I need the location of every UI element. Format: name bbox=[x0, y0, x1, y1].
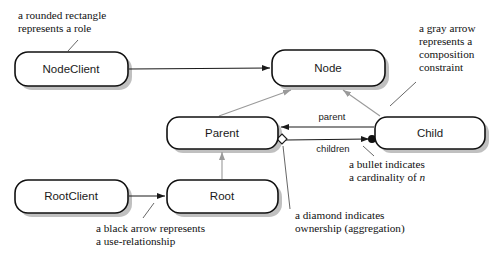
edge-nodeclient-to-node bbox=[129, 68, 270, 69]
annotation-gray-arrow-line-4: constraint bbox=[419, 61, 464, 73]
annotation-bullet-italic-n: n bbox=[420, 171, 426, 183]
role-label-rootclient: RootClient bbox=[44, 190, 98, 202]
edge-child-to-node bbox=[343, 90, 380, 116]
annotation-bullet-line-1: a bullet indicates bbox=[349, 158, 425, 170]
annotation-black-arrow-line-1: a black arrow represents bbox=[96, 222, 205, 234]
diagram-svg: NodeClient Node Parent Child RootClient … bbox=[0, 0, 497, 259]
annotation-rounded-rectangle-line-1: a rounded rectangle bbox=[18, 9, 106, 21]
annotation-black-arrow-line-2: a use-relationship bbox=[96, 235, 176, 247]
leader-bullet-note bbox=[363, 146, 374, 156]
annotation-rounded-rectangle-line-2: represents a role bbox=[18, 22, 91, 34]
role-label-root: Root bbox=[210, 190, 235, 202]
annotation-gray-arrow-line-1: a gray arrow bbox=[419, 22, 476, 34]
annotation-diamond-line-2: ownership (aggregation) bbox=[295, 222, 405, 235]
edge-label-parent: parent bbox=[319, 111, 346, 122]
leader-rounded-rectangle-note bbox=[68, 40, 78, 51]
role-label-child: Child bbox=[417, 127, 443, 139]
diagram-canvas: NodeClient Node Parent Child RootClient … bbox=[0, 0, 497, 259]
annotation-bullet-line-2-text: a cardinality of bbox=[349, 171, 420, 183]
leader-black-arrow-note bbox=[143, 203, 154, 218]
annotation-diamond-line-1: a diamond indicates bbox=[295, 209, 384, 221]
edge-label-children: children bbox=[316, 143, 349, 154]
leader-gray-arrow-note bbox=[390, 82, 416, 106]
role-label-nodeclient: NodeClient bbox=[43, 63, 101, 75]
leader-diamond-note bbox=[283, 146, 290, 209]
annotation-gray-arrow-line-2: represents a bbox=[419, 35, 472, 47]
edge-parent-to-node bbox=[219, 90, 291, 116]
annotation-bullet-line-2: a cardinality of n bbox=[349, 171, 426, 183]
annotation-gray-arrow-line-3: composition bbox=[419, 48, 475, 60]
role-label-parent: Parent bbox=[205, 127, 240, 139]
edge-labels: parent children bbox=[316, 111, 349, 154]
edge-parent-to-child bbox=[286, 139, 369, 140]
role-label-node: Node bbox=[314, 62, 342, 74]
